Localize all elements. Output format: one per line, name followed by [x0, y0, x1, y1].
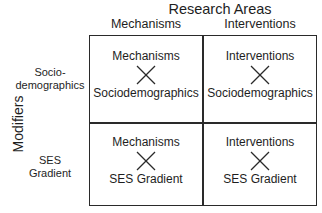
cell-top-label: Mechanisms	[89, 49, 203, 63]
column-header-mechanisms: Mechanisms	[89, 17, 203, 31]
row-header-line: Gradient	[12, 167, 88, 180]
cell-mechanisms-sociodemographics: Mechanisms Sociodemographics	[89, 49, 203, 100]
cell-interventions-ses-gradient: Interventions SES Gradient	[203, 135, 317, 186]
row-header-ses-gradient: SES Gradient	[12, 154, 88, 180]
cell-bottom-label: SES Gradient	[89, 172, 203, 186]
cross-icon	[249, 150, 271, 172]
cell-interventions-sociodemographics: Interventions Sociodemographics	[203, 49, 317, 100]
row-header-line: SES	[12, 154, 88, 167]
cell-top-label: Interventions	[203, 49, 317, 63]
row-axis-label: Modifiers	[10, 84, 26, 164]
cell-bottom-label: Sociodemographics	[89, 86, 203, 100]
cell-top-label: Mechanisms	[89, 135, 203, 149]
row-header-line: demographics	[12, 79, 88, 92]
column-header-interventions: Interventions	[203, 17, 317, 31]
cross-icon	[249, 64, 271, 86]
diagram-title: Research Areas	[120, 1, 320, 17]
row-divider	[89, 122, 317, 124]
cell-bottom-label: SES Gradient	[203, 172, 317, 186]
cross-icon	[135, 64, 157, 86]
row-header-line: Socio-	[12, 66, 88, 79]
cell-bottom-label: Sociodemographics	[203, 86, 317, 100]
cell-top-label: Interventions	[203, 135, 317, 149]
cell-mechanisms-ses-gradient: Mechanisms SES Gradient	[89, 135, 203, 186]
row-header-sociodemographics: Socio- demographics	[12, 66, 88, 92]
cross-icon	[135, 150, 157, 172]
